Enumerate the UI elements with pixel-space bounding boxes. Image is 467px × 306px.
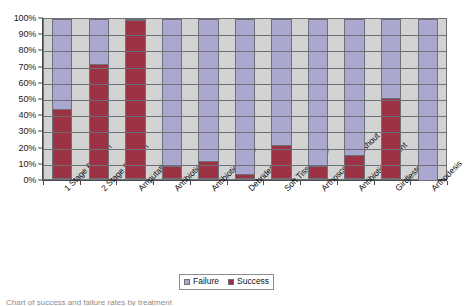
bar-stack[interactable] <box>89 19 109 179</box>
y-axis-tick-label: 30% <box>19 126 36 136</box>
y-axis-tick-label: 90% <box>19 29 36 39</box>
caption-text: Chart of success and failure rates by tr… <box>6 299 172 306</box>
bar-segment-failure[interactable] <box>344 19 364 157</box>
y-axis-tick-label: 20% <box>19 143 36 153</box>
y-axis-tick-label: 60% <box>19 78 36 88</box>
bar-slot <box>154 19 191 179</box>
bar-segment-failure[interactable] <box>381 19 401 100</box>
bar-slot <box>81 19 118 179</box>
bar-segment-success[interactable] <box>344 155 364 179</box>
y-axis-tick-label: 40% <box>19 110 36 120</box>
y-axis-tick-label: 100% <box>14 13 36 23</box>
bar-slot <box>300 19 337 179</box>
bar-segment-success[interactable] <box>52 109 72 179</box>
x-axis-tick-mark <box>43 181 44 185</box>
bar-stack[interactable] <box>271 19 291 179</box>
legend-label: Success <box>237 277 269 286</box>
bar-segment-failure[interactable] <box>198 19 218 163</box>
bar-segment-success[interactable] <box>308 166 328 179</box>
bar-slot <box>336 19 373 179</box>
bar-stack[interactable] <box>52 19 72 179</box>
bar-stack[interactable] <box>235 19 255 179</box>
bar-segment-success[interactable] <box>162 166 182 179</box>
bar-series-group <box>44 19 446 179</box>
bar-segment-success[interactable] <box>381 98 401 179</box>
legend-swatch-icon <box>184 279 190 285</box>
bar-stack[interactable] <box>162 19 182 179</box>
bar-segment-success[interactable] <box>89 64 109 179</box>
y-axis-tick-label: 50% <box>19 94 36 104</box>
bar-segment-failure[interactable] <box>235 19 255 176</box>
chart-figure: 0%10%20%30%40%50%60%70%80%90%100% 1 Stag… <box>0 0 467 306</box>
bar-segment-success[interactable] <box>125 20 145 179</box>
bar-segment-failure[interactable] <box>418 19 438 181</box>
bar-segment-failure[interactable] <box>271 19 291 147</box>
chart-legend: FailureSuccess <box>179 274 274 290</box>
bar-stack[interactable] <box>198 19 218 179</box>
bar-stack[interactable] <box>308 19 328 179</box>
bar-stack[interactable] <box>418 19 438 179</box>
legend-swatch-icon <box>228 279 234 285</box>
legend-item[interactable]: Success <box>228 277 269 286</box>
y-axis: 0%10%20%30%40%50%60%70%80%90%100% <box>0 18 43 180</box>
y-axis-tick-label: 70% <box>19 62 36 72</box>
bar-segment-failure[interactable] <box>89 19 109 66</box>
bar-slot <box>263 19 300 179</box>
y-axis-tick-label: 0% <box>23 175 36 185</box>
legend-item[interactable]: Failure <box>184 277 219 286</box>
bar-slot <box>227 19 264 179</box>
x-axis-labels: 1 Stage Revision2 Stage RevisionAmputati… <box>43 186 447 266</box>
bar-slot <box>190 19 227 179</box>
bar-segment-success[interactable] <box>271 145 291 179</box>
bar-stack[interactable] <box>381 19 401 179</box>
bar-slot <box>373 19 410 179</box>
bar-segment-failure[interactable] <box>52 19 72 111</box>
caption-strip: Chart of success and failure rates by tr… <box>0 299 467 306</box>
bar-slot <box>117 19 154 179</box>
bar-slot <box>409 19 446 179</box>
legend-label: Failure <box>193 277 219 286</box>
plot-area <box>43 18 447 180</box>
bar-stack[interactable] <box>344 19 364 179</box>
y-axis-tick-label: 80% <box>19 45 36 55</box>
bar-segment-success[interactable] <box>198 161 218 179</box>
bar-segment-failure[interactable] <box>308 19 328 168</box>
bar-segment-failure[interactable] <box>162 19 182 168</box>
bar-slot <box>44 19 81 179</box>
bar-stack[interactable] <box>125 19 145 179</box>
bar-segment-success[interactable] <box>235 174 255 179</box>
y-axis-tick-label: 10% <box>19 159 36 169</box>
